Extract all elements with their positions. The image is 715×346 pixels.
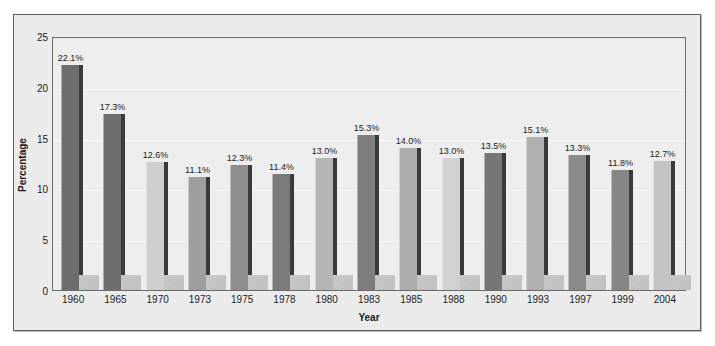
bar-3d-edge xyxy=(121,114,125,290)
bar-body xyxy=(146,162,164,290)
bar[interactable]: 13.3% xyxy=(568,155,586,290)
bar[interactable]: 13.0% xyxy=(442,158,460,290)
bar[interactable]: 12.3% xyxy=(230,165,248,290)
bar-body xyxy=(568,155,586,290)
bar-group[interactable]: 11.1% xyxy=(188,38,206,290)
bar-body xyxy=(484,153,502,290)
plot-area: 22.1%17.3%12.6%11.1%12.3%11.4%13.0%15.3%… xyxy=(52,37,686,291)
bar[interactable]: 11.4% xyxy=(272,174,290,290)
bar-3d-edge xyxy=(460,158,464,290)
bar-value-label: 15.1% xyxy=(523,125,549,135)
bar-group[interactable]: 11.4% xyxy=(272,38,290,290)
bar-group[interactable]: 12.6% xyxy=(146,38,164,290)
x-axis-tick-label: 1990 xyxy=(485,294,507,305)
bar-group[interactable]: 12.3% xyxy=(230,38,248,290)
bar[interactable]: 15.3% xyxy=(357,135,375,290)
bar-group[interactable]: 13.3% xyxy=(568,38,586,290)
bar-body xyxy=(230,165,248,290)
bar-shadow xyxy=(79,275,99,290)
bar-3d-edge xyxy=(248,165,252,290)
x-axis-tick-label: 1975 xyxy=(231,294,253,305)
bar-shadow xyxy=(544,275,564,290)
bar-3d-edge xyxy=(629,170,633,290)
bar-body xyxy=(653,161,671,290)
y-axis-tick-label: 20 xyxy=(24,82,48,93)
bar-3d-edge xyxy=(671,161,675,290)
bar-3d-edge xyxy=(586,155,590,290)
bar-3d-edge xyxy=(290,174,294,290)
x-axis-tick-label: 1965 xyxy=(104,294,126,305)
bar-body xyxy=(399,148,417,290)
bar-shadow xyxy=(671,275,691,290)
bar-body xyxy=(61,65,79,290)
bar-group[interactable]: 13.5% xyxy=(484,38,502,290)
x-axis-tick-label: 1999 xyxy=(611,294,633,305)
bar-group[interactable]: 11.8% xyxy=(611,38,629,290)
x-axis-tick-label: 1993 xyxy=(527,294,549,305)
bar-body xyxy=(357,135,375,290)
bar[interactable]: 12.7% xyxy=(653,161,671,290)
bar-3d-edge xyxy=(417,148,421,290)
bar-value-label: 12.7% xyxy=(650,149,676,159)
bar-group[interactable]: 13.0% xyxy=(315,38,333,290)
bar-shadow xyxy=(375,275,395,290)
bar-shadow xyxy=(121,275,141,290)
bar-group[interactable]: 22.1% xyxy=(61,38,79,290)
bar[interactable]: 12.6% xyxy=(146,162,164,290)
x-axis-tick-label: 1980 xyxy=(316,294,338,305)
bar-3d-edge xyxy=(502,153,506,290)
x-axis-title: Year xyxy=(52,312,686,323)
bar-group[interactable]: 15.3% xyxy=(357,38,375,290)
bar-value-label: 12.6% xyxy=(143,150,169,160)
bar-3d-edge xyxy=(375,135,379,290)
bar-series: 22.1%17.3%12.6%11.1%12.3%11.4%13.0%15.3%… xyxy=(53,38,685,290)
x-axis-tick-label: 1960 xyxy=(62,294,84,305)
bar[interactable]: 14.0% xyxy=(399,148,417,290)
bar[interactable]: 13.5% xyxy=(484,153,502,290)
bar[interactable]: 22.1% xyxy=(61,65,79,290)
bar[interactable]: 11.1% xyxy=(188,177,206,290)
y-axis-tick-label: 25 xyxy=(24,32,48,43)
bar-body xyxy=(611,170,629,290)
y-axis-tick-label: 15 xyxy=(24,133,48,144)
bar-value-label: 22.1% xyxy=(58,53,84,63)
bar-group[interactable]: 17.3% xyxy=(103,38,121,290)
x-axis-tick-label: 1985 xyxy=(400,294,422,305)
bar-shadow xyxy=(164,275,184,290)
x-axis-tick-label: 1978 xyxy=(273,294,295,305)
bar-value-label: 11.1% xyxy=(185,165,210,175)
bar-3d-edge xyxy=(333,158,337,290)
bar-value-label: 13.5% xyxy=(481,141,507,151)
bar-value-label: 15.3% xyxy=(354,123,380,133)
bar-value-label: 11.4% xyxy=(269,162,294,172)
bar-group[interactable]: 12.7% xyxy=(653,38,671,290)
bar-value-label: 13.3% xyxy=(565,143,591,153)
bar-shadow xyxy=(248,275,268,290)
bar-shadow xyxy=(502,275,522,290)
y-axis-tick-label: 5 xyxy=(24,235,48,246)
y-axis-tick-label: 0 xyxy=(24,286,48,297)
bar[interactable]: 17.3% xyxy=(103,114,121,290)
y-axis-tick-labels: 0510152025 xyxy=(24,30,48,292)
bar-3d-edge xyxy=(79,65,83,290)
x-axis-tick-label: 2004 xyxy=(654,294,676,305)
bar-3d-edge xyxy=(206,177,210,290)
bar-value-label: 14.0% xyxy=(396,136,422,146)
bar-shadow xyxy=(460,275,480,290)
bar-body xyxy=(526,137,544,290)
bar[interactable]: 15.1% xyxy=(526,137,544,290)
bar-group[interactable]: 15.1% xyxy=(526,38,544,290)
x-axis-tick-label: 1983 xyxy=(358,294,380,305)
bar-value-label: 13.0% xyxy=(312,146,338,156)
y-axis-tick-label: 10 xyxy=(24,184,48,195)
bar-body xyxy=(103,114,121,290)
x-axis-tick-label: 1997 xyxy=(569,294,591,305)
bar[interactable]: 11.8% xyxy=(611,170,629,290)
bar-shadow xyxy=(629,275,649,290)
bar-body xyxy=(272,174,290,290)
bar-value-label: 17.3% xyxy=(100,102,126,112)
x-axis-tick-label: 1988 xyxy=(442,294,464,305)
bar-group[interactable]: 14.0% xyxy=(399,38,417,290)
bar[interactable]: 13.0% xyxy=(315,158,333,290)
bar-group[interactable]: 13.0% xyxy=(442,38,460,290)
